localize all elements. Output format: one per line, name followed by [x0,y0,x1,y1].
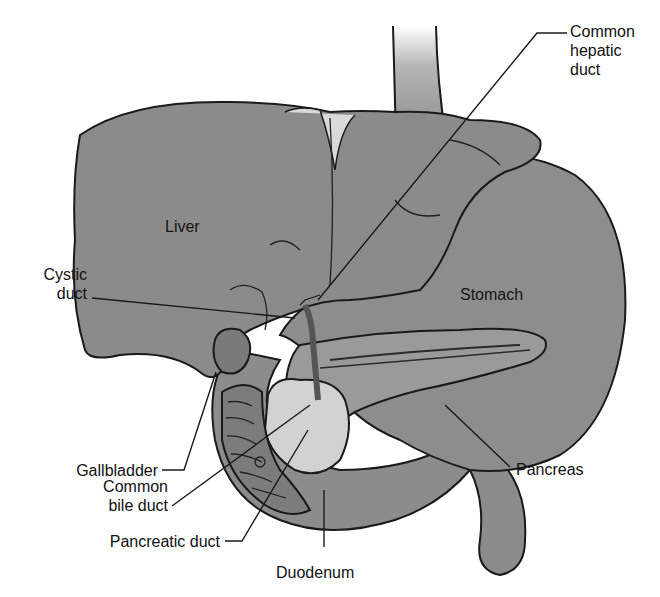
label-cystic-duct: Cystic duct [22,265,87,303]
label-line: Common [570,22,635,41]
label-pancreas: Pancreas [516,460,584,479]
label-line: Cystic [22,265,87,284]
label-duodenum: Duodenum [276,563,354,582]
label-common-hepatic-duct: Common hepatic duct [570,22,635,79]
anatomy-diagram: Common hepatic duct Liver Cystic duct St… [0,0,660,597]
label-line: bile duct [75,496,168,515]
label-line: duct [570,60,635,79]
label-line: duct [22,284,87,303]
label-common-bile-duct: Common bile duct [75,477,168,515]
label-liver: Liver [165,217,200,236]
gallbladder-shape [214,329,251,374]
label-stomach: Stomach [460,285,523,304]
label-pancreatic-duct: Pancreatic duct [60,532,220,551]
label-line: hepatic [570,41,635,60]
label-line: Common [75,477,168,496]
